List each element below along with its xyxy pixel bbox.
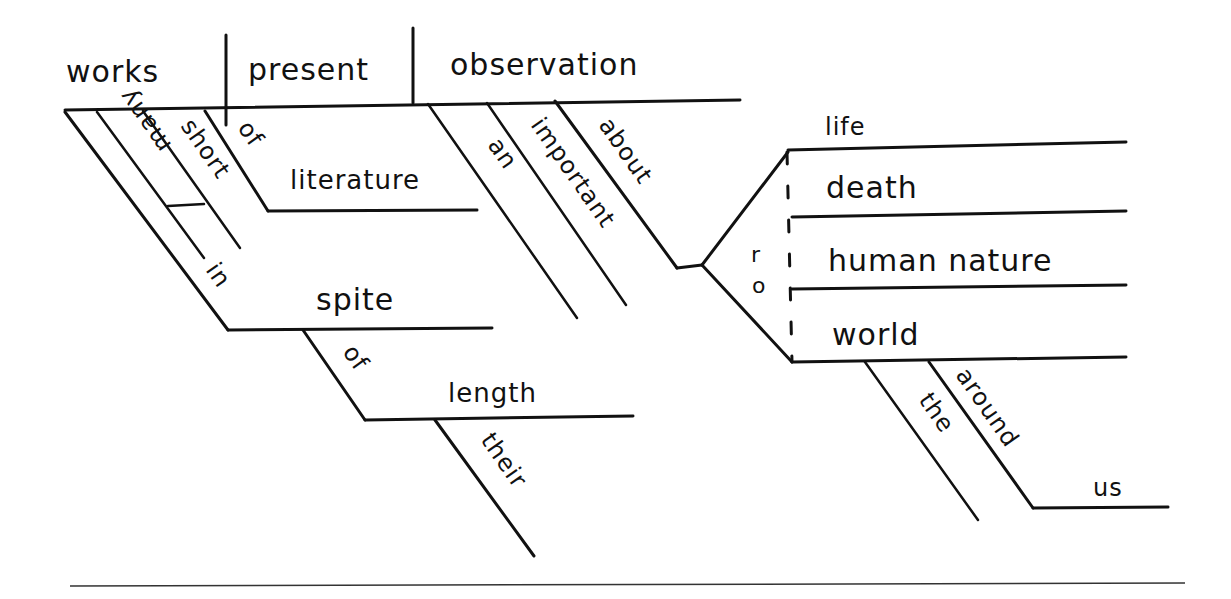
word-of-2: of [337, 339, 374, 376]
word-in: in [200, 257, 237, 293]
about-stub-line [677, 265, 702, 268]
word-length: length [448, 378, 537, 408]
bottom-rule [70, 583, 1185, 586]
word-life: life [825, 113, 866, 141]
word-works: works [66, 54, 159, 89]
sentence-diagram: works present observation in spite many … [0, 0, 1231, 599]
length-line [365, 416, 633, 420]
fork-upper-line [702, 152, 788, 265]
word-of: of [232, 115, 269, 152]
life-line [788, 142, 1126, 150]
word-world: world [832, 317, 920, 352]
literature-line [268, 210, 477, 211]
human-nature-line [792, 285, 1126, 289]
word-about: about [593, 112, 659, 189]
us-line [1033, 507, 1168, 508]
word-human-nature: human nature [828, 243, 1053, 278]
word-us: us [1093, 474, 1123, 502]
death-line [792, 211, 1126, 217]
word-literature: literature [290, 165, 420, 195]
world-line [792, 357, 1126, 362]
word-or-r: r [751, 242, 761, 267]
word-spite: spite [316, 282, 394, 317]
conjunction-dashed-line [787, 152, 792, 362]
word-their: their [475, 427, 533, 493]
fork-lower-line [702, 265, 792, 362]
word-an: an [482, 132, 523, 174]
many-short-connector [168, 204, 204, 206]
word-death: death [826, 170, 918, 205]
word-or-o: o [752, 273, 766, 298]
main-baseline [65, 100, 740, 110]
spite-line [228, 328, 492, 330]
diagram-canvas: works present observation in spite many … [0, 0, 1231, 599]
word-present: present [248, 52, 369, 87]
word-observation: observation [450, 47, 638, 82]
